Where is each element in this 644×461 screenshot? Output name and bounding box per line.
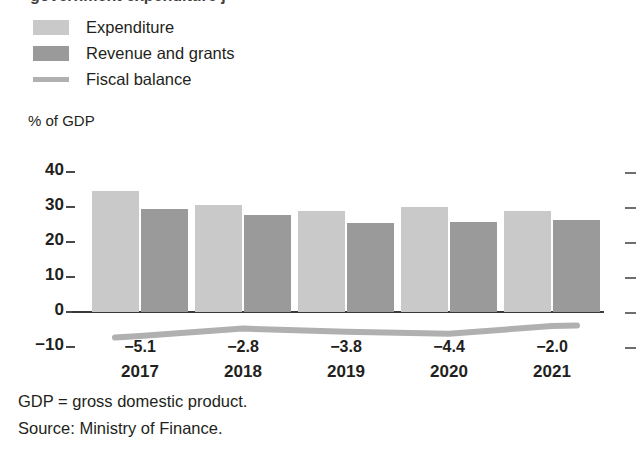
figure-footnotes: GDP = gross domestic product. Source: Mi… xyxy=(18,388,247,442)
data-label-fiscal-balance-2021: −2.0 xyxy=(507,338,597,356)
footnote-gdp-definition: GDP = gross domestic product. xyxy=(18,388,247,415)
data-label-fiscal-balance-2017: −5.1 xyxy=(95,338,185,356)
data-label-fiscal-balance-2020: −4.4 xyxy=(404,338,494,356)
data-label-fiscal-balance-2019: −3.8 xyxy=(301,338,391,356)
footnote-source: Source: Ministry of Finance. xyxy=(18,415,247,442)
x-axis-label-2019: 2019 xyxy=(301,362,391,382)
x-axis-label-2021: 2021 xyxy=(507,362,597,382)
x-axis-label-2020: 2020 xyxy=(404,362,494,382)
x-axis-label-2017: 2017 xyxy=(95,362,185,382)
data-label-fiscal-balance-2018: −2.8 xyxy=(198,338,288,356)
x-axis-label-2018: 2018 xyxy=(198,362,288,382)
